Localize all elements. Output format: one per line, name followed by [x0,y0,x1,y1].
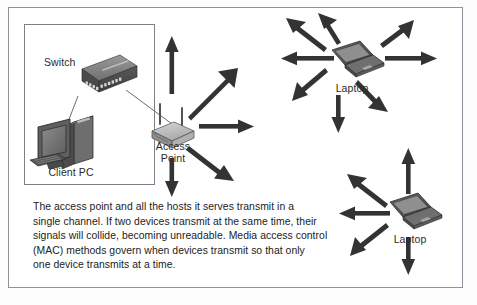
caption-line: one device transmits at a time. [33,258,333,273]
caption-line: (MAC) methods govern when devices transm… [33,244,333,259]
wired-lan-box [24,24,155,185]
caption-line: signals will collide, becoming unreadabl… [33,229,333,244]
figure-container: Switch Client PC Access Point Laptop Lap… [0,0,477,305]
access-point-label-line1: Access [156,141,190,153]
switch-label: Switch [44,57,76,69]
client-pc-label: Client PC [48,167,93,179]
laptop-bottom-label: Laptop [394,234,427,246]
caption-line: The access point and all the hosts it se… [33,200,333,215]
access-point-label-line2: Point [161,153,185,165]
caption-line: single channel. If two devices transmit … [33,215,333,230]
laptop-top-label: Laptop [336,83,369,95]
figure-caption: The access point and all the hosts it se… [33,200,333,273]
